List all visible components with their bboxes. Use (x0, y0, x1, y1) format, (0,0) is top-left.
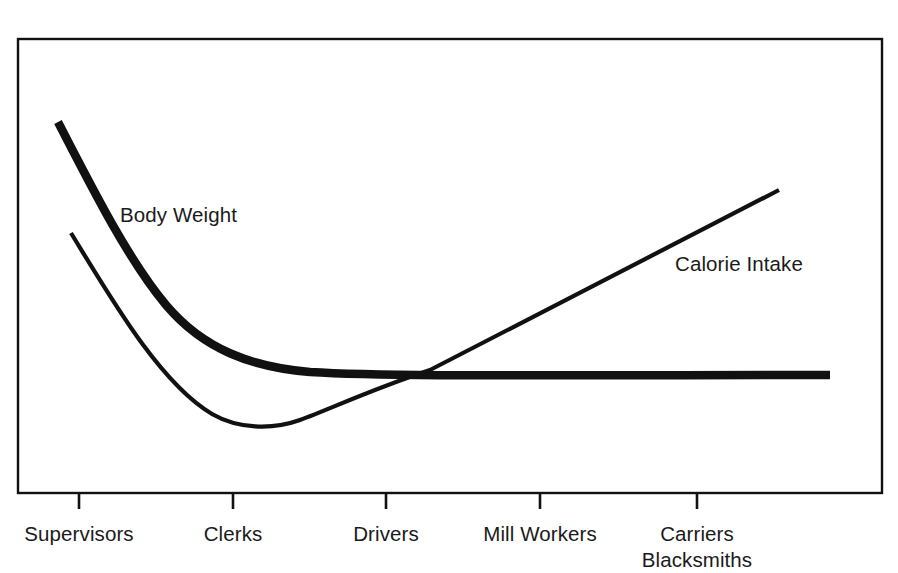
x-axis-label-drivers-line1: Drivers (353, 522, 419, 545)
chart-figure: Body Weight Calorie Intake Supervisors C… (0, 0, 898, 573)
x-axis-label-supervisors-line1: Supervisors (24, 522, 133, 545)
x-axis-label-clerks: Clerks (204, 522, 263, 546)
x-axis-label-mill-workers: Mill Workers (483, 522, 597, 546)
series-label-body-weight: Body Weight (120, 203, 237, 227)
chart-plot-area (0, 0, 898, 573)
x-axis-ticks (79, 493, 697, 509)
series-line-body-weight (58, 122, 830, 375)
series-label-calorie-intake: Calorie Intake (675, 252, 803, 276)
x-axis-label-clerks-line1: Clerks (204, 522, 263, 545)
x-axis-label-mill-workers-line1: Mill Workers (483, 522, 597, 545)
x-axis-label-supervisors: Supervisors (24, 522, 133, 546)
x-axis-label-drivers: Drivers (353, 522, 419, 546)
x-axis-label-carriers-blacksmiths: Carriers Blacksmiths (642, 522, 752, 572)
x-axis-label-blacksmiths-line2: Blacksmiths (642, 548, 752, 572)
x-axis-label-carriers-line1: Carriers (660, 522, 734, 545)
